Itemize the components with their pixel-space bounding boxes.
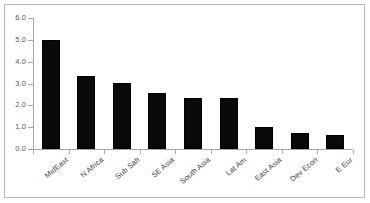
bar <box>42 40 60 149</box>
y-axis-tick-label: 3.0 <box>0 80 26 88</box>
y-axis-tick-label: 2.0 <box>0 101 26 109</box>
bar <box>326 135 344 149</box>
bar <box>148 93 166 149</box>
y-axis-tick <box>28 105 33 106</box>
bar <box>77 76 95 149</box>
x-axis-label-text: Lat Am <box>225 156 248 177</box>
x-axis-line <box>33 149 353 150</box>
x-axis-label-text: N Africa <box>79 156 105 179</box>
y-axis-tick <box>28 62 33 63</box>
y-axis-tick-label-text: 6.0 <box>4 14 26 22</box>
y-axis-tick-label: 5.0 <box>0 36 26 44</box>
x-axis-tick <box>246 150 247 154</box>
x-axis-tick <box>211 150 212 154</box>
x-axis-tick <box>33 150 34 154</box>
x-axis-label-text: East Asia <box>253 156 282 182</box>
x-axis-label-text: Dev Econ <box>288 156 318 183</box>
bar <box>184 98 202 149</box>
y-axis-tick-label: 4.0 <box>0 58 26 66</box>
x-axis-tick <box>317 150 318 154</box>
bar <box>220 98 238 149</box>
x-axis-tick <box>353 150 354 154</box>
y-axis-tick-label-text: 4.0 <box>4 58 26 66</box>
x-axis-tick <box>104 150 105 154</box>
x-axis-tick <box>282 150 283 154</box>
bar <box>291 133 309 149</box>
x-axis-label-text: South Asia <box>179 156 212 185</box>
y-axis-tick-label-text: 3.0 <box>4 80 26 88</box>
x-axis-label-text: Sub Sah <box>113 156 140 181</box>
y-axis-tick <box>28 127 33 128</box>
x-axis-tick <box>140 150 141 154</box>
y-axis-tick <box>28 18 33 19</box>
y-axis-tick-label-text: 5.0 <box>4 36 26 44</box>
y-axis-tick-label-text: 0.0 <box>4 145 26 153</box>
bar-chart-figure: 0.01.02.03.04.05.06.0 MidEastN AfricaSub… <box>0 0 370 203</box>
y-axis-tick-label: 1.0 <box>0 123 26 131</box>
x-axis-tick <box>175 150 176 154</box>
x-axis-tick <box>69 150 70 154</box>
y-axis-tick-label-text: 2.0 <box>4 101 26 109</box>
bar <box>255 127 273 149</box>
y-axis-tick-label: 0.0 <box>0 145 26 153</box>
x-axis-label-text: MidEast <box>44 156 70 180</box>
y-axis-tick-label: 6.0 <box>0 14 26 22</box>
x-axis-label-text: SE Asia <box>150 156 175 179</box>
y-axis-tick <box>28 40 33 41</box>
bar <box>113 83 131 149</box>
y-axis-tick <box>28 84 33 85</box>
x-axis-label-text: E Eur <box>334 156 354 174</box>
y-axis-tick-label-text: 1.0 <box>4 123 26 131</box>
y-axis-line <box>33 18 34 150</box>
